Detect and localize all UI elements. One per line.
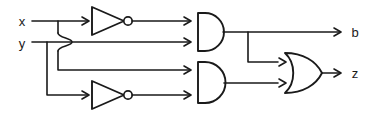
not-gate-triangle-1 (92, 7, 124, 35)
logic-circuit-diagram: x y (0, 0, 376, 113)
and-gate-1 (184, 13, 224, 51)
not-gate-triangle-2 (92, 81, 124, 109)
wire-y-branch-to-inverter2 (47, 42, 88, 95)
input-label-y: y (19, 36, 26, 51)
arrowhead-or-input-bottom (279, 79, 286, 87)
and-gate-body-1 (198, 13, 224, 51)
circuit-diagram-canvas: x y (0, 0, 376, 113)
and-gate-body-2 (198, 62, 226, 103)
arrowhead-or-input-top (279, 58, 286, 66)
input-label-x: x (19, 14, 26, 29)
wire-x-branch-to-and2 (58, 51, 190, 70)
or-gate-body (285, 53, 322, 93)
not-gate-bubble-1 (124, 17, 132, 25)
not-gate-inverter1 (82, 7, 132, 35)
not-gate-bubble-2 (124, 91, 132, 99)
and-gate-2 (184, 62, 226, 103)
not-gate-inverter2 (82, 81, 132, 109)
output-label-b: b (351, 25, 358, 40)
wire-and1-branch-to-or (248, 32, 278, 62)
output-label-z: z (352, 66, 359, 81)
or-gate-1 (279, 53, 322, 93)
